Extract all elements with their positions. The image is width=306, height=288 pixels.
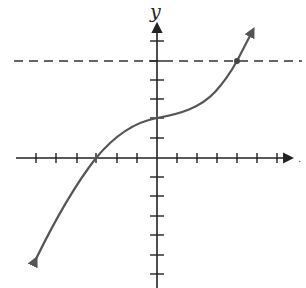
function-graph: y . xyxy=(0,0,306,288)
intersection-point xyxy=(234,58,240,64)
x-axis-trailing-mark: . xyxy=(298,153,301,164)
function-curve xyxy=(36,30,253,259)
y-axis-label: y xyxy=(149,0,161,22)
